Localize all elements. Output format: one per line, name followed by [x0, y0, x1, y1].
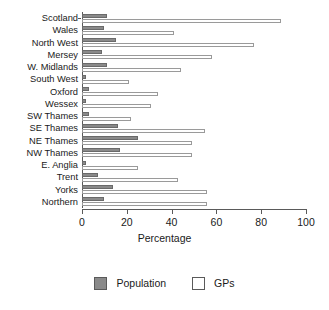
bar-population: [82, 185, 113, 189]
bar-population: [82, 148, 120, 152]
category-label: Mersey: [48, 49, 78, 61]
bar-gps: [82, 19, 281, 23]
bar-gps: [82, 166, 138, 170]
bar-group: [82, 184, 306, 196]
bar-group: [82, 135, 306, 147]
bar-population: [82, 124, 118, 128]
bar-population: [82, 161, 86, 165]
x-tick-mark: [127, 209, 128, 214]
bar-gps: [82, 43, 254, 47]
bar-group: [82, 171, 306, 183]
x-tick-mark: [306, 209, 307, 214]
category-label: NW Thames: [27, 147, 79, 159]
bar-group: [82, 73, 306, 85]
category-label: Oxford: [50, 86, 78, 98]
bar-group: [82, 196, 306, 208]
category-label: W. Midlands: [27, 61, 78, 73]
category-label: E. Anglia: [41, 159, 78, 171]
bar-group: [82, 24, 306, 36]
bar-population: [82, 99, 86, 103]
x-tick-label: 60: [201, 216, 231, 228]
category-label: Yorks: [55, 184, 78, 196]
legend-swatch-gps-icon: [192, 277, 205, 290]
legend-item: Population: [94, 277, 166, 290]
bar-group: [82, 61, 306, 73]
bar-gps: [82, 80, 129, 84]
legend-item: GPs: [192, 277, 234, 290]
bar-gps: [82, 55, 212, 59]
bar-gps: [82, 117, 131, 121]
legend-label: GPs: [214, 277, 234, 289]
bar-group: [82, 12, 306, 24]
category-tick: [78, 18, 81, 19]
bar-group: [82, 98, 306, 110]
legend-swatch-population-icon: [94, 277, 107, 290]
bar-gps: [82, 153, 192, 157]
x-tick-label: 0: [67, 216, 97, 228]
category-label: Trent: [57, 171, 78, 183]
category-label: SW Thames: [27, 110, 78, 122]
x-axis-line: [82, 209, 307, 210]
bar-population: [82, 112, 89, 116]
bar-population: [82, 197, 104, 201]
x-tick-label: 80: [246, 216, 276, 228]
bar-population: [82, 87, 89, 91]
category-label: NE Thames: [29, 135, 78, 147]
x-tick-mark: [216, 209, 217, 214]
bar-population: [82, 26, 104, 30]
bar-group: [82, 122, 306, 134]
bar-gps: [82, 178, 178, 182]
bar-gps: [82, 141, 192, 145]
category-label: Wales: [53, 24, 79, 36]
x-axis-title: Percentage: [0, 232, 329, 244]
category-label: Northern: [42, 196, 78, 208]
x-tick-mark: [261, 209, 262, 214]
category-label: Scotland: [42, 12, 78, 24]
bar-gps: [82, 68, 181, 72]
bar-population: [82, 50, 102, 54]
bar-gps: [82, 92, 158, 96]
bar-group: [82, 159, 306, 171]
category-label: Wessex: [45, 98, 78, 110]
bar-group: [82, 37, 306, 49]
category-label: South West: [30, 73, 78, 85]
bar-population: [82, 14, 107, 18]
bar-gps: [82, 31, 174, 35]
bar-population: [82, 173, 98, 177]
plot-area: [82, 12, 306, 208]
bar-population: [82, 75, 86, 79]
bar-gps: [82, 190, 207, 194]
bar-population: [82, 136, 138, 140]
bar-population: [82, 38, 116, 42]
bar-group: [82, 110, 306, 122]
legend-label: Population: [116, 277, 166, 289]
bar-gps: [82, 129, 205, 133]
bar-gps: [82, 202, 207, 206]
category-label: North West: [32, 37, 78, 49]
x-tick-label: 100: [291, 216, 321, 228]
bar-gps: [82, 104, 151, 108]
x-tick-mark: [82, 209, 83, 214]
bar-group: [82, 49, 306, 61]
category-label: SE Thames: [30, 122, 78, 134]
bar-group: [82, 86, 306, 98]
x-tick-label: 20: [112, 216, 142, 228]
chart-legend: PopulationGPs: [0, 272, 329, 294]
bar-group: [82, 147, 306, 159]
x-tick-label: 40: [157, 216, 187, 228]
x-tick-mark: [172, 209, 173, 214]
bar-population: [82, 63, 107, 67]
category-axis: ScotlandWalesNorth WestMerseyW. Midlands…: [0, 12, 78, 208]
bar-chart: ScotlandWalesNorth WestMerseyW. Midlands…: [0, 0, 329, 310]
